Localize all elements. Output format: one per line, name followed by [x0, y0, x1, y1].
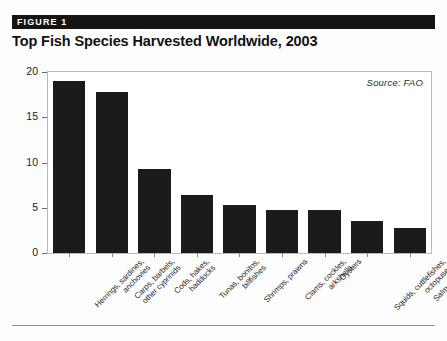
bar-slot [48, 72, 91, 253]
y-tick-label: 20 [26, 65, 38, 77]
y-tick-label: 15 [26, 110, 38, 122]
bar [53, 81, 85, 253]
bar [181, 195, 213, 253]
figure-number-label: FIGURE 1 [12, 17, 67, 27]
page-title: Top Fish Species Harvested Worldwide, 20… [12, 33, 318, 49]
x-axis-label: Tunas, bonitos,billfishes [218, 257, 269, 308]
figure-page: FIGURE 1 Top Fish Species Harvested Worl… [0, 0, 447, 341]
y-tick-label: 10 [26, 156, 38, 168]
x-axis-label: Cods, hakes,haddocks [173, 257, 218, 302]
bar [138, 169, 170, 253]
y-tick: 10 [0, 163, 47, 164]
bar [266, 210, 298, 253]
bar-slot [133, 72, 176, 253]
x-axis-labels: Herrings, sardines,anchoviesCarps, barbe… [0, 255, 447, 317]
x-axis-label: Shrimps, prawns [262, 257, 310, 305]
bottom-divider [12, 325, 435, 326]
bar-slot [303, 72, 346, 253]
bar-slot [91, 72, 134, 253]
bar-slot [218, 72, 261, 253]
bar [223, 205, 255, 253]
bar-series [48, 72, 431, 253]
bar-slot [261, 72, 304, 253]
bar-slot [176, 72, 219, 253]
figure-banner: FIGURE 1 [12, 15, 435, 29]
bar [394, 228, 426, 253]
bar [308, 210, 340, 253]
y-tick: 0 [0, 253, 47, 254]
y-tick: 20 [0, 72, 47, 73]
y-tick: 5 [0, 208, 47, 209]
y-tick: 15 [0, 117, 47, 118]
bar-slot [346, 72, 389, 253]
x-axis-label: Clams, cockles,arkshells [303, 257, 355, 309]
bar-slot [388, 72, 431, 253]
x-axis-label-line: Shrimps, prawns [262, 257, 310, 305]
y-tick-label: 5 [32, 201, 38, 213]
bar [351, 221, 383, 253]
bar [96, 92, 128, 253]
